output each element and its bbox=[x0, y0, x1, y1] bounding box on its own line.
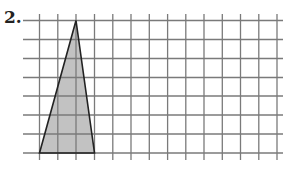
grid-diagram bbox=[0, 0, 295, 174]
shaded-triangle bbox=[40, 21, 95, 154]
